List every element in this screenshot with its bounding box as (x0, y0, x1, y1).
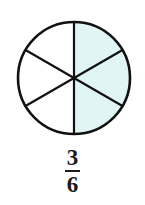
circle-center-point (72, 76, 76, 80)
fraction-numerator: 3 (65, 146, 81, 170)
fraction-figure: 3 6 (0, 0, 145, 205)
fraction-denominator: 6 (65, 172, 81, 196)
fraction: 3 6 (65, 146, 81, 196)
fraction-label: 3 6 (0, 146, 145, 196)
